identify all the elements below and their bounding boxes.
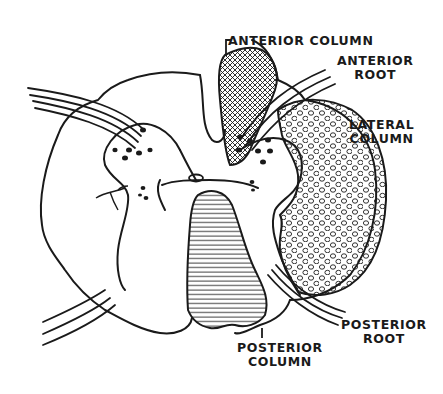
anterior-root-label: ANTERIOR ROOT — [337, 54, 414, 82]
posterior-root-left-fibers — [43, 290, 115, 345]
posterior-column-region — [187, 191, 266, 328]
spinal-cord-diagram: ANTERIOR COLUMN ANTERIOR ROOT LATERAL CO… — [0, 0, 443, 394]
posterior-root-label: POSTERIOR ROOT — [341, 318, 427, 346]
lateral-column-label: LATERAL COLUMN — [349, 118, 414, 146]
branching-fiber — [96, 186, 128, 210]
posterior-column-label: POSTERIOR COLUMN — [237, 341, 323, 369]
anterior-column-label: ANTERIOR COLUMN — [228, 34, 373, 48]
anterior-root-left-fibers — [28, 88, 144, 148]
cord-outline-left — [41, 72, 200, 333]
